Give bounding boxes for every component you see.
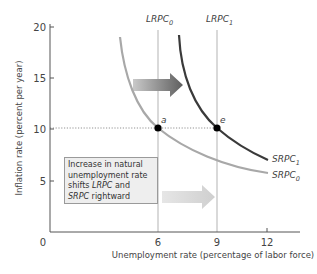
phillips-curve-chart: 20 15 10 5 0 6 9 12 Unemployment rate (p…: [0, 0, 317, 274]
x-tick-label-9: 9: [214, 237, 220, 248]
note-line-1: Increase in natural: [68, 160, 154, 171]
srpc1-label: SRPC1: [272, 154, 300, 167]
y-tick-label-5: 5: [40, 176, 46, 187]
x-tick-label-0: 0: [40, 237, 46, 248]
point-a: [154, 124, 161, 131]
srpc0-label: SRPC0: [272, 170, 300, 183]
annotation-note: Increase in natural unemployment rate sh…: [64, 157, 158, 204]
note-line-2: unemployment rate: [68, 171, 154, 182]
note-line-3: shifts LRPC and: [68, 181, 154, 192]
lower-shift-arrow-icon: [162, 185, 215, 209]
srpc1-curve: [179, 35, 268, 160]
y-tick-label-15: 15: [33, 73, 46, 84]
point-a-label: a: [161, 115, 167, 125]
lrpc0-label: LRPC0: [146, 14, 173, 27]
point-e-label: e: [220, 115, 226, 125]
y-tick-label-20: 20: [33, 22, 46, 33]
x-tick-label-6: 6: [155, 237, 161, 248]
x-tick-label-12: 12: [261, 237, 274, 248]
y-axis-title: Inflation rate (percent per year): [14, 60, 24, 195]
lrpc1-label: LRPC1: [206, 14, 233, 27]
srpc0-curve: [120, 37, 268, 173]
y-tick-label-10: 10: [33, 124, 46, 135]
point-e: [213, 124, 220, 131]
x-axis-title: Unemployment rate (percentage of labor f…: [112, 250, 314, 260]
note-line-4: SRPC rightward: [68, 192, 154, 203]
